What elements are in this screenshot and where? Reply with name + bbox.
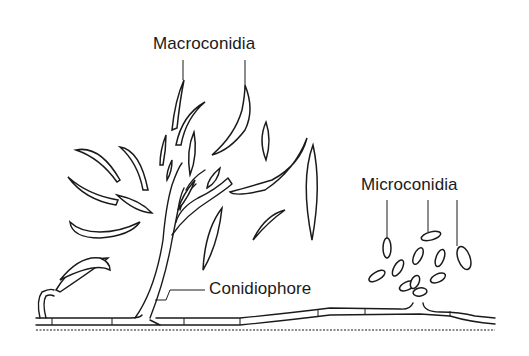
label-conidiophore: Conidiophore [209, 279, 311, 299]
label-microconidia: Microconidia [361, 175, 458, 195]
microconidia-spores [367, 230, 474, 298]
fungal-conidia-diagram: Macroconidia Microconidia Conidiophore [0, 0, 529, 356]
septate-hypha [36, 303, 495, 330]
conidiophore-stalk [38, 163, 232, 318]
label-macroconidia: Macroconidia [153, 34, 255, 54]
macroconidia-spores [56, 80, 317, 292]
